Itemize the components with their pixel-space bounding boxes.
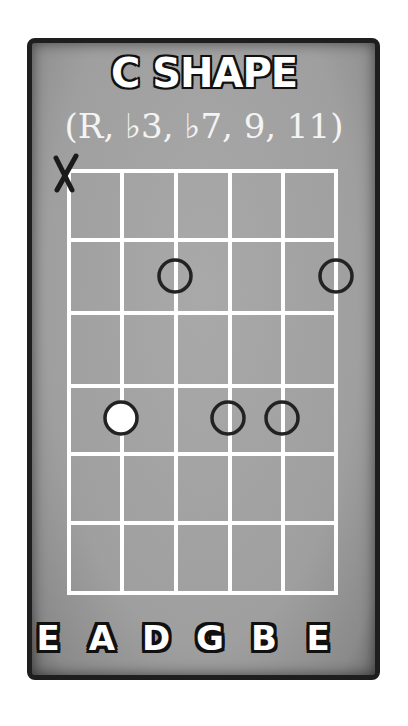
string-label-a: A xyxy=(82,612,122,664)
root-note-fret4-a xyxy=(105,402,137,434)
string-label-b: B xyxy=(244,612,284,664)
string-label-low-e: E xyxy=(28,612,68,664)
string-label-g: G xyxy=(190,612,230,664)
string-label-high-e: E xyxy=(298,612,338,664)
string-names: E A D G B E xyxy=(0,612,408,668)
string-label-d: D xyxy=(136,612,176,664)
grid-lines xyxy=(67,171,338,594)
